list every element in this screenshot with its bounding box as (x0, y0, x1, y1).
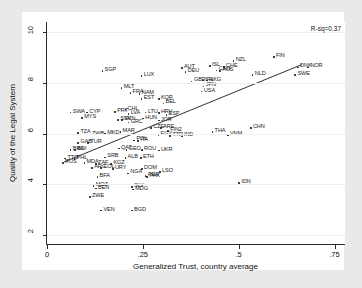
y-tick-label: 8 (27, 77, 41, 81)
y-axis-title: Quality of the Legal System (6, 22, 18, 245)
y-gridline (47, 235, 345, 236)
y-tick-mark (43, 32, 47, 33)
x-tick-label: .75 (329, 250, 339, 259)
y-gridline (47, 184, 345, 185)
y-tick-label: 10 (27, 26, 41, 34)
x-tick-mark (47, 245, 48, 249)
x-axis-title: Generalized Trust, country average (46, 262, 345, 271)
y-tick-mark (43, 83, 47, 84)
x-tick-mark (239, 245, 240, 249)
plot-area: SGPLUXFINNZLISLCHEDNKNORSWENLDAUTDEUCANA… (47, 22, 345, 244)
y-gridline (47, 83, 345, 84)
r-squared-annotation: R-sq=0.37 (311, 25, 341, 32)
y-tick-mark (43, 235, 47, 236)
y-tick-label: 6 (27, 128, 41, 132)
y-tick-label: 4 (27, 178, 41, 182)
x-tick-label: 0 (45, 250, 49, 259)
scatter-plot-figure: Quality of the Legal System SGPLUXFINNZL… (0, 0, 362, 288)
x-tick-label: .5 (236, 250, 242, 259)
y-tick-mark (43, 184, 47, 185)
plot-frame: SGPLUXFINNZLISLCHEDNKNORSWENLDAUTDEUCANA… (46, 22, 345, 245)
x-tick-mark (143, 245, 144, 249)
x-tick-mark (335, 245, 336, 249)
y-gridline (47, 134, 345, 135)
x-tick-label: .25 (138, 250, 148, 259)
y-gridline (47, 32, 345, 33)
y-tick-mark (43, 134, 47, 135)
y-tick-label: 2 (27, 229, 41, 233)
